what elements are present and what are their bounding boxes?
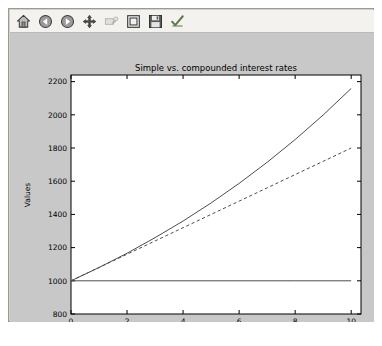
configure-subplots-icon[interactable] — [123, 11, 144, 31]
y-axis-label: Values — [23, 183, 32, 208]
figure-window: 8001000120014001600180020002200 0246810 … — [8, 8, 374, 322]
figure-canvas[interactable]: 8001000120014001600180020002200 0246810 … — [10, 33, 374, 322]
zoom-rect-icon[interactable] — [101, 11, 122, 31]
x-tick-label: 6 — [237, 317, 242, 322]
y-tick-label: 2200 — [48, 77, 67, 86]
x-tick-label: 8 — [293, 317, 298, 322]
y-tick-label: 1800 — [48, 144, 67, 153]
back-arrow-icon[interactable] — [35, 11, 56, 31]
x-tick-label: 4 — [181, 317, 186, 322]
home-icon[interactable] — [13, 11, 34, 31]
pan-move-icon[interactable] — [79, 11, 100, 31]
forward-arrow-icon[interactable] — [57, 11, 78, 31]
chart-title: Simple vs. compounded interest rates — [135, 63, 297, 73]
y-tick-label: 1000 — [48, 277, 67, 286]
x-tick-label: 2 — [125, 317, 130, 322]
save-floppy-icon[interactable] — [145, 11, 166, 31]
y-tick-label: 1600 — [48, 177, 67, 186]
y-tick-label: 800 — [53, 310, 68, 319]
checkmark-icon[interactable] — [167, 11, 188, 31]
x-tick-label: 10 — [346, 317, 356, 322]
axes-background — [71, 75, 361, 314]
y-tick-label: 1200 — [48, 243, 67, 252]
navigation-toolbar — [10, 10, 374, 33]
y-tick-label: 2000 — [48, 111, 67, 120]
y-tick-label: 1400 — [48, 210, 67, 219]
x-tick-label: 0 — [69, 317, 74, 322]
plot-svg: 8001000120014001600180020002200 0246810 … — [10, 33, 374, 322]
